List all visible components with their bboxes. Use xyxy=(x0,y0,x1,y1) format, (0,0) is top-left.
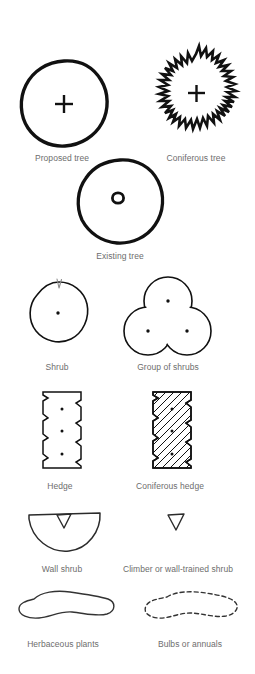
caption-bulbs-or-annuals: Bulbs or annuals xyxy=(158,639,222,649)
caption-group-of-shrubs: Group of shrubs xyxy=(137,362,199,372)
caption-herbaceous-plants: Herbaceous plants xyxy=(27,639,99,649)
symbol-bulbs-or-annuals xyxy=(140,589,244,627)
symbol-coniferous-tree xyxy=(144,44,248,156)
symbol-existing-tree xyxy=(73,155,167,249)
symbol-wall-shrub xyxy=(26,509,104,557)
symbol-coniferous-hedge xyxy=(146,390,198,470)
coniferous-tree-plus-icon xyxy=(188,85,205,102)
wall-shrub-triangle-icon xyxy=(57,514,71,528)
symbol-group-of-shrubs xyxy=(122,275,214,357)
bulbs-or-annuals-outline xyxy=(145,592,237,618)
symbol-climber-wall-trained-shrub xyxy=(165,512,189,536)
group-of-shrubs-inner-mask xyxy=(125,278,209,353)
caption-climber-wall-trained-shrub: Climber or wall-trained shrub xyxy=(123,564,233,574)
existing-tree-centre-ring xyxy=(112,193,123,203)
caption-coniferous-hedge: Coniferous hedge xyxy=(136,481,204,491)
climber-triangle-icon xyxy=(168,514,184,530)
symbol-key-sheet: Proposed tree Coniferous tree Existing t… xyxy=(0,0,255,674)
symbol-herbaceous-plants xyxy=(14,589,118,627)
caption-wall-shrub: Wall shrub xyxy=(42,564,82,574)
symbol-shrub xyxy=(24,277,94,349)
symbol-hedge xyxy=(36,390,88,470)
caption-existing-tree: Existing tree xyxy=(96,251,143,261)
symbol-proposed-tree xyxy=(14,55,112,153)
shrub-top-tick xyxy=(57,279,62,288)
proposed-tree-plus-icon xyxy=(55,95,73,113)
herbaceous-plants-outline xyxy=(19,591,114,618)
caption-shrub: Shrub xyxy=(46,362,69,372)
wall-shrub-outline xyxy=(29,513,100,551)
caption-coniferous-tree: Coniferous tree xyxy=(167,153,226,163)
caption-hedge: Hedge xyxy=(47,481,72,491)
shrub-centre-dot xyxy=(56,311,59,314)
